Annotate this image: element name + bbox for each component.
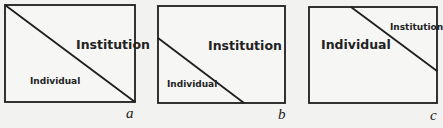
panel-a-individual-label: Individual — [30, 76, 80, 86]
panel-a-letter: a — [126, 105, 134, 121]
individual-institution-diagram: Institution Individual a Institution Ind… — [0, 0, 443, 128]
panel-c-institution-label: Institution — [390, 22, 443, 32]
panel-b: Institution Individual b — [158, 6, 286, 122]
panel-b-individual-label: Individual — [167, 79, 217, 89]
panel-a-institution-label: Institution — [76, 37, 150, 52]
panel-c-letter: c — [430, 107, 437, 123]
panel-c: Individual Institution c — [309, 7, 443, 123]
panel-a: Institution Individual a — [5, 5, 150, 121]
panel-c-individual-label: Individual — [321, 37, 391, 52]
panel-b-letter: b — [278, 106, 286, 122]
panel-b-institution-label: Institution — [208, 38, 282, 53]
